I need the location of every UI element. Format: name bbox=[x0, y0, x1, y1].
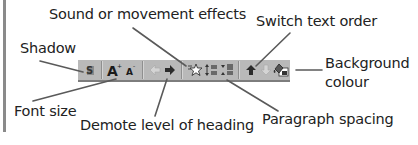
toolbar-separator bbox=[142, 61, 144, 79]
label-font-size: Font size bbox=[14, 103, 77, 119]
leader-line-demote bbox=[155, 79, 167, 116]
label-background-colour-1: Background bbox=[325, 55, 410, 71]
shadow-button[interactable]: S bbox=[82, 60, 98, 80]
decrease-font-size-button[interactable]: A - bbox=[123, 60, 139, 80]
label-background-colour-2: colour bbox=[325, 74, 369, 90]
paragraph-spacing-down-icon bbox=[220, 63, 234, 77]
background-colour-button[interactable] bbox=[273, 60, 290, 80]
label-switch-text-order: Switch text order bbox=[256, 13, 377, 29]
demote-arrow-icon bbox=[164, 64, 176, 76]
demote-button[interactable] bbox=[162, 60, 178, 80]
promote-button[interactable] bbox=[147, 60, 163, 80]
shadow-icon: S bbox=[85, 64, 95, 76]
svg-text:-: - bbox=[133, 63, 135, 69]
increase-font-icon: A + bbox=[106, 62, 122, 78]
increase-paragraph-spacing-button[interactable] bbox=[204, 60, 220, 80]
promote-arrow-icon bbox=[149, 64, 161, 76]
toolbar-separator bbox=[238, 61, 240, 79]
move-up-arrow-icon bbox=[245, 64, 257, 76]
move-down-button[interactable] bbox=[259, 60, 273, 80]
paint-bucket-icon bbox=[273, 63, 289, 77]
frame-border-line bbox=[3, 0, 6, 132]
leader-line-font-size bbox=[33, 79, 116, 101]
label-sound-effects: Sound or movement effects bbox=[49, 6, 246, 22]
svg-text:+: + bbox=[117, 62, 122, 69]
svg-text:A: A bbox=[126, 67, 133, 77]
label-paragraph-spacing: Paragraph spacing bbox=[262, 111, 394, 127]
decrease-paragraph-spacing-button[interactable] bbox=[219, 60, 235, 80]
svg-text:S: S bbox=[86, 65, 93, 76]
label-demote-heading: Demote level of heading bbox=[80, 117, 254, 133]
animation-effects-button[interactable] bbox=[186, 60, 203, 80]
formatting-toolbar: S A + A - bbox=[78, 60, 290, 82]
label-shadow: Shadow bbox=[20, 40, 76, 56]
move-up-button[interactable] bbox=[243, 60, 259, 80]
paragraph-spacing-up-icon bbox=[204, 63, 218, 77]
star-effects-icon bbox=[187, 63, 203, 77]
leader-line-paragraph-spacing bbox=[227, 80, 278, 111]
toolbar-separator bbox=[101, 61, 103, 79]
move-down-arrow-icon bbox=[260, 64, 272, 76]
toolbar-separator bbox=[181, 61, 183, 79]
leader-line-shadow bbox=[40, 61, 83, 72]
decrease-font-icon: A - bbox=[124, 63, 138, 77]
increase-font-size-button[interactable]: A + bbox=[106, 60, 123, 80]
